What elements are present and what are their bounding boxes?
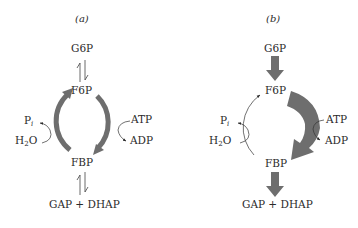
left-arc-arrow bbox=[56, 94, 70, 150]
node-gap-dhap-b: GAP + DHAP bbox=[242, 198, 313, 210]
diagram-canvas bbox=[0, 0, 358, 228]
panel-label-a: (a) bbox=[75, 13, 89, 24]
node-f6p-b: F6P bbox=[265, 84, 286, 96]
flux-arrow-g6p-f6p bbox=[266, 56, 284, 81]
h2o-to-pi-curve-a bbox=[40, 123, 51, 143]
pi-label-a: Pi bbox=[24, 114, 33, 126]
node-g6p-a: G6P bbox=[71, 42, 93, 54]
node-fbp-a: FBP bbox=[71, 156, 93, 168]
node-fbp-b: FBP bbox=[265, 157, 287, 169]
cycle-arcs-a bbox=[56, 88, 108, 155]
adp-label-b: ADP bbox=[325, 134, 348, 146]
h2o-label-a: H2O bbox=[15, 134, 37, 146]
h2o-label-b: H2O bbox=[209, 134, 231, 146]
left-thin-arc bbox=[243, 95, 260, 155]
panel-a bbox=[40, 60, 130, 195]
flux-arc-f6p-fbp bbox=[287, 91, 320, 160]
node-g6p-b: G6P bbox=[264, 42, 286, 54]
pi-label-b: Pi bbox=[220, 114, 229, 126]
panel-b bbox=[238, 56, 324, 197]
panel-label-b: (b) bbox=[266, 13, 280, 24]
atp-label-a: ATP bbox=[131, 113, 152, 125]
atp-to-adp-curve-a bbox=[118, 121, 130, 141]
adp-label-a: ADP bbox=[130, 134, 153, 146]
flux-arrow-fbp-gap bbox=[266, 172, 284, 197]
reversible-arrow-fbp-gap bbox=[77, 172, 88, 195]
reversible-arrow-g6p-f6p bbox=[77, 60, 88, 82]
right-arc-arrow bbox=[97, 96, 108, 148]
node-f6p-a: F6P bbox=[71, 84, 92, 96]
node-gap-dhap-a: GAP + DHAP bbox=[49, 198, 120, 210]
atp-label-b: ATP bbox=[326, 113, 347, 125]
